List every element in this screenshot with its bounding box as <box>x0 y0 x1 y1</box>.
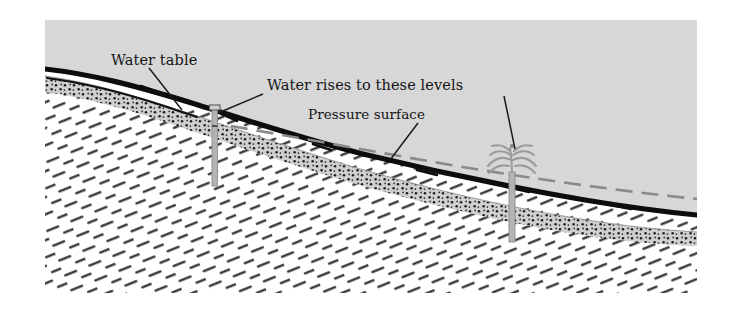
figure-canvas: Water table Water rises to these levels … <box>0 0 732 317</box>
label-water-rises: Water rises to these levels <box>267 77 463 93</box>
nonflowing-well-casing <box>212 108 217 186</box>
cross-section-figure: Water table Water rises to these levels … <box>45 20 697 293</box>
label-pressure-surface: Pressure surface <box>308 106 425 122</box>
cross-section-svg: Water table Water rises to these levels … <box>45 20 697 293</box>
flowing-well-casing <box>509 172 515 242</box>
label-water-table: Water table <box>111 52 197 68</box>
nonflowing-well-head <box>210 105 221 110</box>
